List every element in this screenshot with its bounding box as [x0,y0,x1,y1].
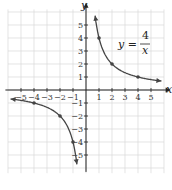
data-point [58,114,62,118]
data-point [97,36,101,40]
x-tick-label: 4 [135,93,140,102]
y-tick-label: 5 [78,21,83,30]
y-tick-label: −3 [71,125,83,134]
arrowhead-icon [93,16,98,21]
x-axis-label: x [166,83,172,96]
equation-label: y = 4 x [117,29,150,57]
y-tick-label: −2 [71,112,83,121]
data-point [71,140,75,144]
curve [11,99,77,164]
x-tick-label: 3 [122,93,127,102]
data-point [136,75,140,79]
x-tick-label: 5 [148,93,153,102]
y-tick-label: −5 [71,151,83,160]
equation-denominator: x [142,44,149,57]
y-tick-label: 4 [78,34,83,43]
x-tick-label: −4 [28,93,40,102]
x-tick-label: −3 [41,93,53,102]
equation-numerator: 4 [142,29,149,42]
y-axis-label: y [80,0,88,12]
equation-lhs: y = [117,38,137,51]
y-tick-label: 2 [78,60,83,69]
data-point [110,62,114,66]
y-tick-label: −1 [71,99,83,108]
x-tick-label: −2 [54,93,66,102]
data-point [32,101,36,105]
arrowhead-icon [74,159,79,164]
x-tick-label: 2 [109,93,114,102]
y-tick-label: 1 [78,73,83,82]
y-tick-label: 3 [78,47,83,56]
hyperbola-chart: −5−4−3−2−112345−5−4−3−2−112345 x y y = 4… [0,0,172,190]
x-tick-label: 1 [96,93,101,102]
